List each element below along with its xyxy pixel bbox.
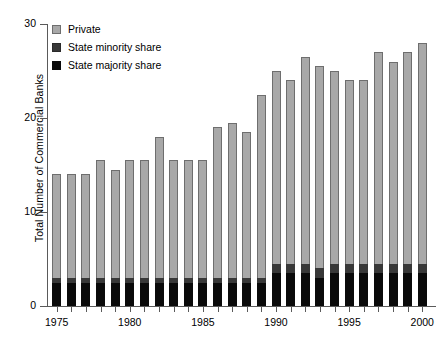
bar-1983	[169, 160, 178, 306]
segment-private	[330, 71, 339, 264]
x-tick	[71, 307, 72, 312]
segment-state-majority	[257, 283, 266, 307]
x-tick-label: 1975	[37, 316, 77, 328]
segment-state-majority	[301, 273, 310, 306]
x-tick	[393, 307, 394, 312]
x-tick	[115, 307, 116, 312]
bar-1976	[67, 174, 76, 306]
bar-1997	[374, 52, 383, 306]
x-tick	[130, 307, 131, 312]
segment-state-majority	[345, 273, 354, 306]
bar-1998	[389, 62, 398, 306]
bar-chart: Total Number of Commercial Banks 0102030…	[0, 0, 443, 342]
segment-private	[242, 132, 251, 278]
y-tick	[40, 306, 47, 307]
bar-1982	[155, 137, 164, 306]
private-swatch-icon	[52, 25, 61, 34]
bar-2000	[418, 43, 427, 306]
legend-item: Private	[52, 20, 161, 38]
x-tick	[247, 307, 248, 312]
segment-private	[315, 66, 324, 268]
legend-item: State minority share	[52, 38, 161, 56]
segment-private	[198, 160, 207, 278]
bar-1978	[96, 160, 105, 306]
legend-label: State minority share	[68, 41, 161, 53]
x-tick	[291, 307, 292, 312]
y-axis-title: Total Number of Commercial Banks	[33, 33, 45, 283]
y-tick-label: 20	[8, 111, 36, 123]
segment-private	[286, 80, 295, 263]
segment-private	[111, 170, 120, 278]
segment-state-minority	[286, 264, 295, 273]
bar-1990	[272, 71, 281, 306]
segment-state-majority	[125, 283, 134, 307]
segment-private	[184, 160, 193, 278]
bar-1986	[213, 127, 222, 306]
segment-state-minority	[389, 264, 398, 273]
segment-state-majority	[374, 273, 383, 306]
x-tick	[261, 307, 262, 312]
x-tick-label: 1980	[110, 316, 150, 328]
segment-state-majority	[52, 283, 61, 307]
segment-state-majority	[67, 283, 76, 307]
segment-state-majority	[169, 283, 178, 307]
segment-state-minority	[345, 264, 354, 273]
segment-private	[374, 52, 383, 264]
x-tick	[232, 307, 233, 312]
bar-1985	[198, 160, 207, 306]
segment-state-majority	[330, 273, 339, 306]
bar-1980	[125, 160, 134, 306]
segment-state-majority	[184, 283, 193, 307]
segment-private	[140, 160, 149, 278]
bar-1989	[257, 95, 266, 306]
segment-private	[67, 174, 76, 277]
segment-state-minority	[418, 264, 427, 273]
x-tick	[305, 307, 306, 312]
segment-state-majority	[242, 283, 251, 307]
x-tick	[101, 307, 102, 312]
segment-state-majority	[359, 273, 368, 306]
bar-1993	[315, 66, 324, 306]
x-tick-label: 1990	[256, 316, 296, 328]
segment-state-minority	[315, 268, 324, 277]
segment-state-majority	[111, 283, 120, 307]
segment-state-majority	[213, 283, 222, 307]
bar-1977	[81, 174, 90, 306]
x-tick-label: 1995	[329, 316, 369, 328]
bar-1981	[140, 160, 149, 306]
x-tick-label: 1985	[183, 316, 223, 328]
segment-private	[301, 57, 310, 264]
segment-state-minority	[403, 264, 412, 273]
segment-private	[155, 137, 164, 278]
segment-state-minority	[330, 264, 339, 273]
segment-state-majority	[81, 283, 90, 307]
segment-state-minority	[374, 264, 383, 273]
segment-state-majority	[418, 273, 427, 306]
x-tick	[335, 307, 336, 312]
chart-legend: PrivateState minority shareState majorit…	[52, 20, 161, 74]
bar-1984	[184, 160, 193, 306]
segment-state-majority	[96, 283, 105, 307]
segment-state-majority	[198, 283, 207, 307]
segment-private	[228, 123, 237, 278]
bar-1975	[52, 174, 61, 306]
legend-label: Private	[68, 23, 101, 35]
segment-private	[169, 160, 178, 278]
state-majority-swatch-icon	[52, 61, 61, 70]
bar-1979	[111, 170, 120, 306]
segment-state-majority	[140, 283, 149, 307]
segment-state-majority	[228, 283, 237, 307]
segment-state-majority	[155, 283, 164, 307]
y-tick-label: 30	[8, 17, 36, 29]
x-tick	[364, 307, 365, 312]
x-tick	[159, 307, 160, 312]
segment-state-minority	[359, 264, 368, 273]
segment-private	[81, 174, 90, 277]
x-tick	[203, 307, 204, 312]
y-tick	[40, 24, 47, 25]
segment-state-majority	[403, 273, 412, 306]
bar-1996	[359, 80, 368, 306]
segment-state-majority	[315, 278, 324, 306]
x-tick	[57, 307, 58, 312]
segment-state-majority	[272, 273, 281, 306]
